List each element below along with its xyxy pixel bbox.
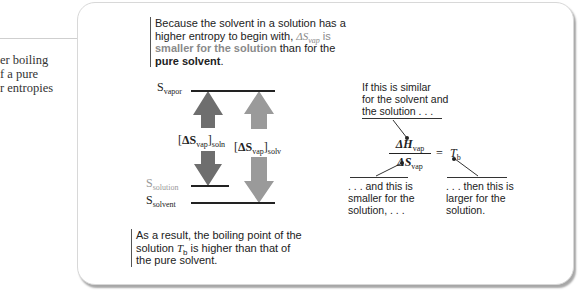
note-line: solution, . . . — [348, 204, 415, 216]
note-top-rule — [362, 118, 442, 119]
t-symbol: T — [450, 146, 457, 160]
note-line: the solution . . . — [362, 105, 448, 117]
numerator: ΔHvap — [389, 137, 431, 152]
note-top: If this is similar for the solvent and t… — [362, 81, 448, 117]
arrow-soln-up-icon — [193, 91, 223, 128]
level-line-vapor — [191, 90, 275, 92]
note-line: smaller for the — [348, 192, 415, 204]
sub-vapor: vapor — [164, 87, 182, 96]
equals-sign: = — [436, 146, 443, 161]
note-line: larger for the — [446, 192, 514, 204]
note-line: . . . then this is — [446, 180, 514, 192]
sub-solv: solv — [268, 147, 281, 156]
label-dsvap-solv: [ΔSvap]solv — [234, 140, 281, 155]
note-left-rule — [350, 177, 408, 178]
result-text: solution — [136, 242, 177, 254]
note-line: solution. — [446, 204, 514, 216]
note-right-rule — [447, 177, 507, 178]
denominator: ΔSvap — [389, 155, 431, 170]
delta-s: ΔS — [238, 140, 252, 154]
result-line-1: As a result, the boiling point of the — [136, 229, 326, 242]
note-line: If this is similar — [362, 81, 448, 93]
level-line-solvent — [191, 202, 275, 204]
label-s-solution: Ssolution — [146, 176, 178, 191]
fraction: ΔHvap ΔSvap — [389, 137, 431, 170]
sub-b: b — [457, 153, 461, 162]
delta-h: ΔH — [396, 137, 413, 151]
result-line-2: solution Tb is higher than that of — [136, 242, 326, 255]
sub-solvent: solvent — [153, 200, 176, 209]
sub-solution: solution — [153, 183, 179, 192]
s-symbol: S — [146, 193, 153, 207]
label-s-vapor: Svapor — [157, 80, 182, 95]
result-line-3: the pure solvent. — [136, 254, 326, 267]
sub-vap: vap — [196, 140, 208, 149]
level-line-solution — [191, 185, 229, 187]
note-line: . . . and this is — [348, 180, 415, 192]
arrow-solv-up-icon — [244, 91, 274, 129]
sub-vap: vap — [411, 162, 423, 171]
note-bottom-left: . . . and this is smaller for the soluti… — [348, 180, 415, 216]
result-text: is higher than that of — [188, 242, 291, 254]
fraction-bar — [389, 153, 431, 154]
arrow-solv-down-icon — [244, 157, 274, 203]
note-line: for the solvent and — [362, 93, 448, 105]
arrow-soln-down-icon — [194, 151, 222, 186]
label-s-solvent: Ssolvent — [146, 193, 176, 208]
sub-vap: vap — [252, 147, 264, 156]
note-bottom-right: . . . then this is larger for the soluti… — [446, 180, 514, 216]
leader-line-top — [393, 120, 407, 138]
equals: = — [436, 146, 443, 160]
sub-vap: vap — [413, 144, 425, 153]
delta-s: ΔS — [397, 155, 411, 169]
sub-soln: soln — [212, 140, 225, 149]
tb-symbol: Tb — [450, 146, 461, 161]
s-symbol: S — [157, 80, 164, 94]
label-dsvap-soln: [ΔSvap]soln — [178, 133, 225, 148]
delta-s: ΔS — [182, 133, 196, 147]
result-callout: As a result, the boiling point of the so… — [131, 229, 326, 267]
s-symbol: S — [146, 176, 153, 190]
